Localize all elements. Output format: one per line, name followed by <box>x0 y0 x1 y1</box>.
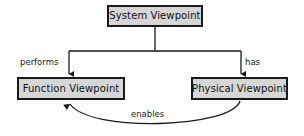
node-physical-viewpoint-label: Physical Viewpoint <box>192 84 287 94</box>
node-function-viewpoint-label: Function Viewpoint <box>23 84 120 94</box>
node-system-viewpoint-label: System Viewpoint <box>109 11 200 21</box>
edge-label-enables: enables <box>131 110 164 119</box>
edge-label-has: has <box>245 58 260 67</box>
node-function-viewpoint[interactable]: Function Viewpoint <box>17 77 125 100</box>
node-physical-viewpoint[interactable]: Physical Viewpoint <box>191 77 288 100</box>
node-system-viewpoint[interactable]: System Viewpoint <box>107 5 203 27</box>
edge-label-performs: performs <box>20 58 58 67</box>
diagram-canvas: System Viewpoint Function Viewpoint Phys… <box>0 0 304 136</box>
